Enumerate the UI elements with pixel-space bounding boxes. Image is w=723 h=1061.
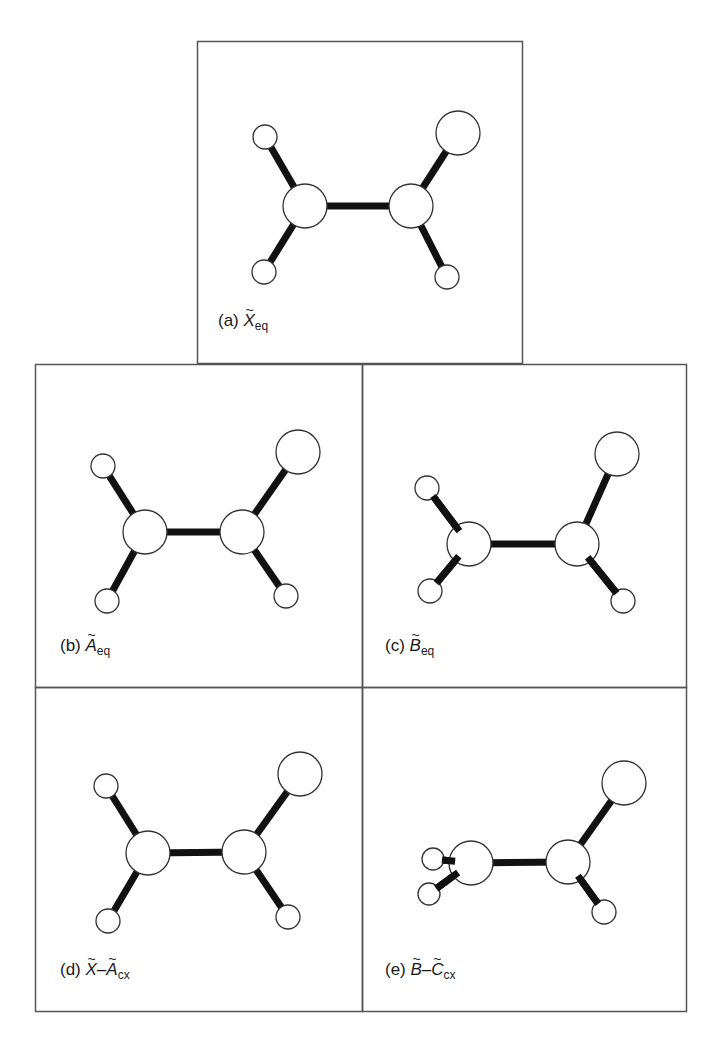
geometry-subscript: cx — [444, 968, 456, 982]
atom-c1 — [283, 184, 327, 228]
bond-foreground — [433, 496, 459, 531]
state-symbol-tilde: ~X — [244, 311, 255, 331]
atom-c1 — [123, 510, 167, 554]
label-separator: – — [422, 960, 431, 979]
bond-foreground — [436, 556, 458, 583]
atom-c2 — [220, 510, 264, 554]
panel-label-prefix: (a) — [218, 311, 239, 330]
atom-h-bottom-left — [96, 909, 120, 933]
geometry-subscript: eq — [421, 644, 434, 658]
molecule-geometry-figure — [0, 0, 723, 1061]
panel-label-a: (a) ~Xeq — [218, 311, 268, 333]
state-symbol-tilde: ~B — [411, 960, 422, 980]
state-symbol-tilde: ~A — [106, 960, 117, 980]
atom-h-bottom-left — [95, 589, 119, 613]
molecule-e — [418, 761, 646, 924]
atom-x-top-right — [436, 111, 480, 155]
panel-label-e: (e) ~B–~Ccx — [385, 960, 456, 982]
atom-h-top-left — [253, 125, 277, 149]
bond-foreground — [442, 860, 455, 861]
atom-c2 — [389, 184, 433, 228]
panel-label-prefix: (b) — [60, 636, 81, 655]
molecules — [91, 111, 646, 933]
panel-label-c: (c) ~Beq — [385, 636, 434, 658]
panel-label-prefix: (d) — [60, 960, 81, 979]
panel-label-prefix: (e) — [385, 960, 406, 979]
state-symbol-tilde: ~C — [431, 960, 443, 980]
atom-x-top-right — [276, 430, 320, 474]
atom-h-top-left — [94, 774, 118, 798]
geometry-subscript: eq — [97, 644, 110, 658]
atom-h-bottom-right — [435, 265, 459, 289]
molecule-a — [252, 111, 480, 289]
state-symbol-tilde: ~A — [86, 636, 97, 656]
atom-x-top-right — [595, 432, 639, 476]
molecule-b — [91, 430, 320, 613]
atom-x-top-right — [602, 761, 646, 805]
bond-foreground — [436, 873, 458, 889]
atom-h-bottom-left — [252, 260, 276, 284]
atom-h-top-left — [91, 454, 115, 478]
panel-label-prefix: (c) — [385, 636, 405, 655]
label-separator: – — [97, 960, 106, 979]
atom-h-upper-left — [422, 848, 444, 870]
atom-c2 — [222, 830, 266, 874]
geometry-subscript: cx — [118, 968, 130, 982]
geometry-subscript: eq — [255, 319, 268, 333]
atom-x-top-right — [278, 752, 322, 796]
molecule-c — [415, 432, 639, 613]
atom-h-bottom-right — [274, 584, 298, 608]
molecule-d — [94, 752, 322, 933]
panel-label-b: (b) ~Aeq — [60, 636, 110, 658]
panel-label-d: (d) ~X–~Acx — [60, 960, 130, 982]
state-symbol-tilde: ~B — [410, 636, 421, 656]
bond-foreground — [588, 557, 617, 593]
atom-c1 — [126, 831, 170, 875]
bond-foreground — [578, 876, 598, 904]
atom-h-bottom-right — [276, 905, 300, 929]
state-symbol-tilde: ~X — [86, 960, 97, 980]
